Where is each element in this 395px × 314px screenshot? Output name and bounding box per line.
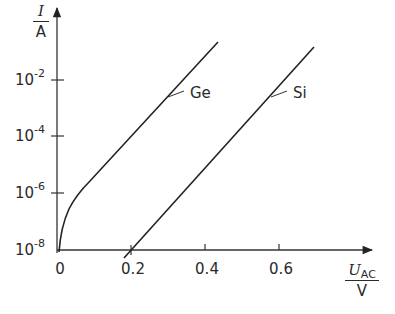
x-tick-label: 0.4 [195,262,219,277]
x-tick-label: 0 [55,262,65,277]
y-tick-base: 10 [15,71,34,89]
x-axis-label-unit: V [345,281,379,299]
y-tick-exp: -6 [34,180,45,193]
series-label-ge: Ge [190,86,211,101]
x-tick-label: 0.6 [269,262,293,277]
y-tick-label: 10-2 [5,70,45,88]
y-tick-label: 10-4 [5,126,45,144]
x-axis-label-symbol: U [348,261,361,279]
y-tick-base: 10 [15,184,34,202]
x-tick-label: 0.2 [121,262,145,277]
x-axis-label: UAC V [345,263,379,299]
series-si-line [124,47,314,258]
y-tick-label: 10-8 [5,240,45,258]
series-ge-line [59,42,218,252]
y-tick-label: 10-6 [5,183,45,201]
y-axis-label-unit: A [33,22,49,40]
y-axis-label: I A [33,4,49,40]
series-label-si: Si [293,86,307,101]
y-tick-exp: -2 [34,67,45,80]
y-tick-base: 10 [15,241,34,259]
y-tick-base: 10 [15,127,34,145]
y-tick-exp: -8 [34,237,45,250]
x-axis-label-subscript: AC [361,268,376,281]
y-tick-exp: -4 [34,123,45,136]
x-axis-label-quantity: UAC [345,263,379,281]
y-axis-label-quantity: I [33,4,49,22]
